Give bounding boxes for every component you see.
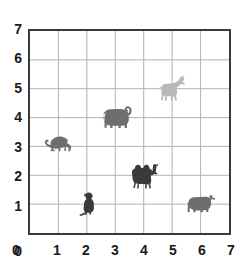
horse-icon [158, 75, 185, 101]
animal-coordinate-grid-chart: 01234567 01234567 [0, 0, 241, 265]
y-tick-label: 3 [4, 140, 22, 154]
y-tick-label: 0 [4, 244, 22, 258]
monkey-sitting-icon [80, 192, 94, 215]
x-tick-label: 3 [107, 243, 123, 257]
y-tick-label: 1 [4, 199, 22, 213]
bear-icon [188, 195, 216, 212]
y-tick-label: 2 [4, 169, 22, 183]
elephant-icon [103, 106, 132, 128]
data-point-markers [30, 31, 229, 233]
x-tick-label: 6 [194, 243, 210, 257]
y-tick-label: 4 [4, 110, 22, 124]
monkey-walking-icon [45, 137, 71, 152]
plot-area [28, 29, 231, 235]
x-tick-label: 5 [165, 243, 181, 257]
x-tick-label: 1 [49, 243, 65, 257]
y-tick-label: 5 [4, 81, 22, 95]
x-tick-label: 4 [136, 243, 152, 257]
y-tick-label: 6 [4, 51, 22, 65]
x-tick-label: 7 [223, 243, 239, 257]
y-tick-label: 7 [4, 22, 22, 36]
camel-icon [132, 164, 158, 189]
x-tick-label: 2 [78, 243, 94, 257]
